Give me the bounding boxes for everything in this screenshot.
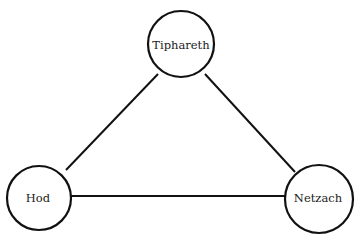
node-tiphareth: Tiphareth <box>148 11 214 77</box>
node-hod-label: Hod <box>26 191 51 205</box>
node-tiphareth-label: Tiphareth <box>152 38 210 52</box>
diagram-canvas: Tiphareth Hod Netzach <box>0 0 361 242</box>
node-netzach-label: Netzach <box>294 191 343 205</box>
edge-tiphareth-netzach <box>205 74 295 172</box>
node-hod: Hod <box>7 166 71 230</box>
node-netzach: Netzach <box>285 165 353 233</box>
edge-hod-tiphareth <box>66 74 158 170</box>
edges <box>66 74 295 196</box>
